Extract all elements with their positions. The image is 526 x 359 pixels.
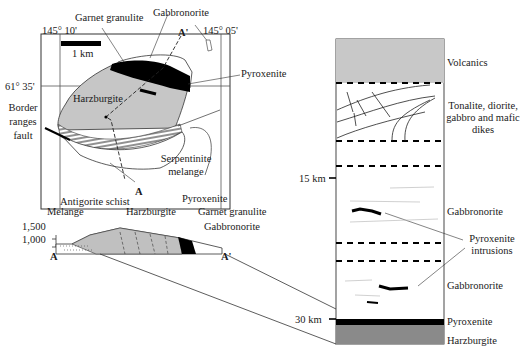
elevation-1500-label: 1,500 xyxy=(22,221,46,232)
depth-30km-label: 30 km xyxy=(295,314,322,325)
column-harzburgite-label: Harzburgite xyxy=(447,335,497,346)
geologic-map xyxy=(41,14,240,209)
xs-harzburgite-label: Harzburgite xyxy=(126,206,176,217)
section-end-label: A' xyxy=(178,27,189,38)
map-pyroxenite-label: Pyroxenite xyxy=(241,68,287,79)
border-fault-label-3: fault xyxy=(7,130,39,141)
section-start-label: A xyxy=(135,186,143,197)
cross-section xyxy=(52,228,222,254)
gabbronorite-upper-label: Gabbronorite xyxy=(447,206,503,217)
longitude-left-label: 145° 10' xyxy=(42,25,77,36)
scale-bar xyxy=(61,41,101,46)
map-garnet-granulite-label: Garnet granulite xyxy=(75,12,144,23)
elevation-1000-label: 1,000 xyxy=(22,234,46,245)
scale-label: 1 km xyxy=(72,48,93,59)
dikes-label-3: dikes xyxy=(445,124,521,135)
stratigraphic-column xyxy=(329,39,465,344)
xs-start-label: A xyxy=(50,251,58,262)
latitude-label: 61° 35' xyxy=(5,81,35,92)
serpentinite-label-2: melange xyxy=(155,166,217,177)
dikes-label-2: gabbro and mafic xyxy=(445,112,521,123)
depth-15km-label: 15 km xyxy=(299,173,326,184)
intrusions-label-2: intrusions xyxy=(462,245,522,256)
gabbronorite-lower-label: Gabbronorite xyxy=(447,280,503,291)
volcanics-label: Volcanics xyxy=(447,57,488,68)
map-gabbronorite-label: Gabbronorite xyxy=(153,7,209,18)
xs-end-label: A' xyxy=(221,251,232,262)
border-fault-label-1: Border xyxy=(7,102,39,113)
xs-garnet-granulite-label: Garnet granulite xyxy=(198,206,267,217)
column-pyroxenite-label: Pyroxenite xyxy=(447,316,493,327)
intrusions-label-1: Pyroxenite xyxy=(462,233,522,244)
xs-pyroxenite-label: Pyroxenite xyxy=(182,193,228,204)
xs-melange-label: Melange xyxy=(47,206,84,217)
map-harzburgite-label: Harzburgite xyxy=(73,93,123,104)
longitude-right-label: 145° 05' xyxy=(203,25,238,36)
border-fault-label-2: ranges xyxy=(5,116,41,127)
xs-gabbronorite-label: Gabbronorite xyxy=(204,221,260,232)
dikes-label-1: Tonalite, diorite, xyxy=(445,100,521,111)
serpentinite-label-1: Serpentinite xyxy=(155,153,217,164)
